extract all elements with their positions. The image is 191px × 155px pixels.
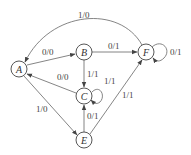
state-label-C: C bbox=[81, 91, 88, 102]
edge-label-B-C: 1/1 bbox=[87, 69, 99, 79]
edge-label-C-A: 0/0 bbox=[57, 72, 69, 82]
edge-A-E bbox=[24, 76, 77, 135]
edge-label-F-F: 0/1 bbox=[170, 47, 182, 57]
edge-label-F-A: 1/0 bbox=[78, 10, 90, 20]
state-F: F bbox=[138, 44, 154, 60]
state-E: E bbox=[76, 132, 92, 148]
edge-label-C-C: 1/1 bbox=[104, 76, 116, 86]
state-C: C bbox=[76, 88, 92, 104]
edge-label-E-F: 1/1 bbox=[122, 90, 134, 100]
state-label-F: F bbox=[142, 47, 150, 58]
state-label-A: A bbox=[15, 64, 23, 75]
edge-label-E-C: 0/1 bbox=[87, 111, 99, 121]
edge-label-B-F: 0/1 bbox=[108, 41, 120, 51]
edge-C-A bbox=[27, 74, 76, 93]
state-diagram: 1/0 0/0 0/1 0/1 1/1 1/1 0/0 1/0 0/1 1/1 … bbox=[0, 0, 191, 155]
state-B: B bbox=[76, 44, 92, 60]
state-label-B: B bbox=[81, 47, 87, 58]
state-A: A bbox=[11, 61, 27, 77]
edge-label-A-B: 0/0 bbox=[42, 47, 54, 57]
edge-label-A-E: 1/0 bbox=[36, 104, 48, 114]
edge-C-C bbox=[91, 89, 102, 103]
state-label-E: E bbox=[80, 135, 87, 146]
